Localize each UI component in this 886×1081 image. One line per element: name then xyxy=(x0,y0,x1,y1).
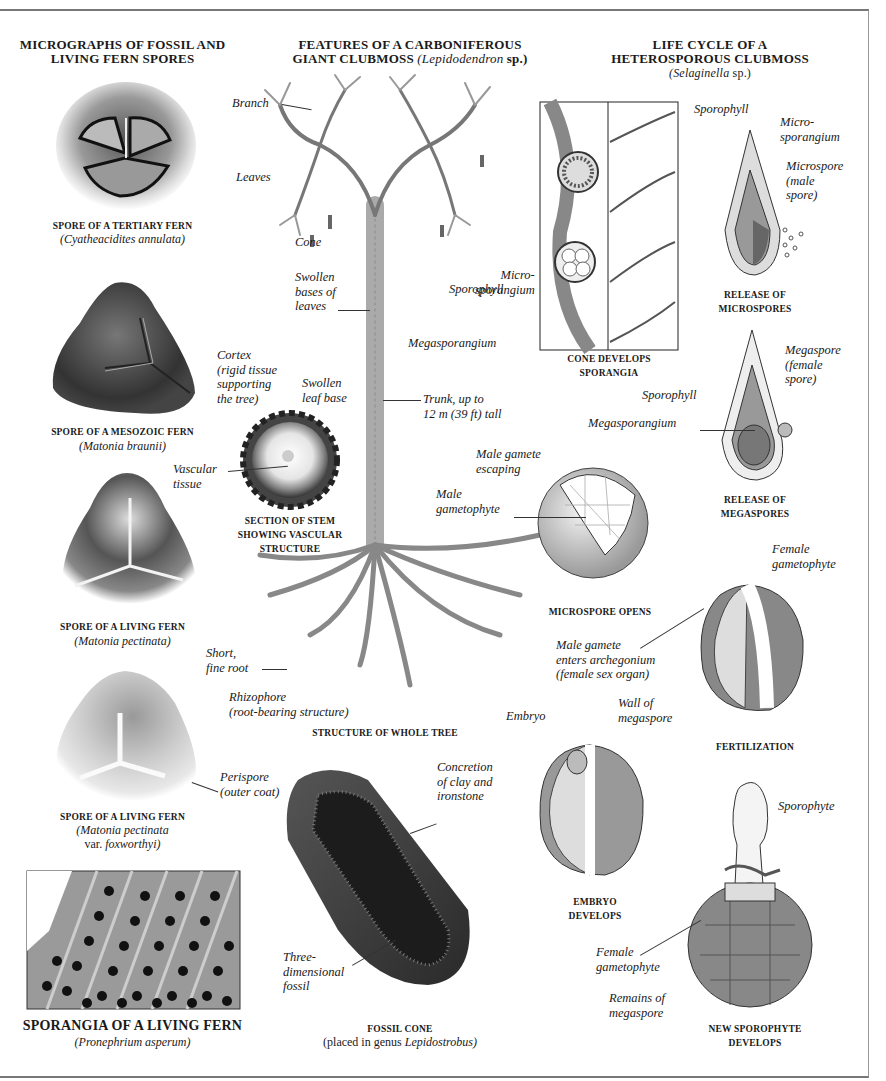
lepidodendron-tree-illustration xyxy=(250,75,550,715)
fossil-genus-name: Lepidostrobus) xyxy=(405,1035,477,1049)
trunk-leader xyxy=(383,400,421,401)
living-spore-species: (Matonia pectinata) xyxy=(10,634,235,648)
lifecycle-section-title: LIFE CYCLE OF A HETEROSPOROUS CLUBMOSS (… xyxy=(575,38,845,80)
micro-sporophyll-label: Sporophyll xyxy=(694,102,748,117)
lifecycle-title-line1: LIFE CYCLE OF A xyxy=(575,38,845,52)
cone-develops-caption: CONE DEVELOPS SPORANGIA xyxy=(540,352,678,380)
living-fern-spore-foxworthyi-image xyxy=(50,668,200,808)
spores-section-title: MICROGRAPHS OF FOSSIL AND LIVING FERN SP… xyxy=(10,38,235,66)
embryo-develops-caption: EMBRYO DEVELOPS xyxy=(540,895,650,923)
stem-caption-line2: SHOWING VASCULAR xyxy=(220,528,360,542)
sporophyte-label: Sporophyte xyxy=(778,799,834,814)
microspore-label: Microspore (male spore) xyxy=(786,159,843,203)
clubmoss-title-prefix: GIANT CLUBMOSS xyxy=(292,51,417,66)
megaspore-label: Megaspore (female spore) xyxy=(785,343,841,387)
cortex-label: Cortex (rigid tissue supporting the tree… xyxy=(217,348,277,406)
cone-megasporangium-label: Megasporangium xyxy=(408,336,496,351)
short-root-leader xyxy=(262,669,287,670)
clubmoss-genus: (Lepidodendron xyxy=(417,51,503,66)
male-gametophyte-leader xyxy=(514,517,586,518)
three-dimensional-fossil-label: Three- dimensional fossil xyxy=(283,950,344,994)
fossil-cone-genus: (placed in genus Lepidostrobus) xyxy=(290,1035,510,1049)
cone-caption-line1: CONE DEVELOPS xyxy=(540,352,678,366)
sporangia-photo xyxy=(27,871,240,1009)
swollen-bases-label: Swollen bases of leaves xyxy=(295,270,336,314)
wall-of-megaspore-label: Wall of megaspore xyxy=(618,696,672,725)
fertilization-illustration xyxy=(695,580,810,715)
microspore-opens-illustration xyxy=(535,465,655,580)
swollen-bases-leader xyxy=(338,310,370,311)
perispore-label: Perispore (outer coat) xyxy=(220,770,279,799)
fossil-cone-caption: FOSSIL CONE xyxy=(300,1022,500,1036)
new-sporophyte-line1: NEW SPOROPHYTE xyxy=(690,1022,820,1036)
trunk-label: Trunk, up to 12 m (39 ft) tall xyxy=(423,392,501,421)
tertiary-fern-spore-image xyxy=(50,78,202,213)
sporangia-species: (Pronephrium asperum) xyxy=(10,1035,255,1049)
spores-title-line2: LIVING FERN SPORES xyxy=(10,52,235,66)
stem-section-caption: SECTION OF STEM SHOWING VASCULAR STRUCTU… xyxy=(220,514,360,556)
cone-caption-line2: SPORANGIA xyxy=(540,366,678,380)
foxworthyi-spore-species: (Matonia pectinata xyxy=(10,823,235,837)
branch-label: Branch xyxy=(232,96,269,111)
sporangia-caption: SPORANGIA OF A LIVING FERN xyxy=(10,1019,255,1033)
release-megaspores-caption: RELEASE OF MEGASPORES xyxy=(700,493,810,521)
mega-sporophyll-label: Sporophyll xyxy=(642,388,696,403)
tree-caption: STRUCTURE OF WHOLE TREE xyxy=(285,726,485,740)
release-microspores-caption: RELEASE OF MICROSPORES xyxy=(700,288,810,316)
swollen-leaf-base-label: Swollen leaf base xyxy=(302,376,347,405)
concretion-label: Concretion of clay and ironstone xyxy=(437,760,493,804)
lifecycle-title-suffix: sp.) xyxy=(729,66,751,80)
megasporangium-leader xyxy=(700,430,755,431)
new-sporophyte-line2: DEVELOPS xyxy=(690,1036,820,1050)
clubmoss-title-line1: FEATURES OF A CARBONIFEROUS xyxy=(270,38,550,52)
mega-release-line2: MEGASPORES xyxy=(700,507,810,521)
leaves-label: Leaves xyxy=(236,170,271,185)
vascular-tissue-label: Vascular tissue xyxy=(173,462,217,491)
embryo-caption-line2: DEVELOPS xyxy=(540,909,650,923)
embryo-illustration xyxy=(535,740,650,880)
embryo-caption-line1: EMBRYO xyxy=(540,895,650,909)
micro-release-line1: RELEASE OF xyxy=(700,288,810,302)
living-spore-caption: SPORE OF A LIVING FERN xyxy=(10,620,235,634)
foxworthyi-spore-variety: var. foxworthyi) xyxy=(10,837,235,851)
male-gamete-escaping-label: Male gamete escaping xyxy=(476,447,541,476)
mesozoic-spore-caption: SPORE OF A MESOZOIC FERN xyxy=(10,425,235,439)
male-gamete-enters-label: Male gamete enters archegonium (female s… xyxy=(556,638,655,682)
fertilization-caption: FERTILIZATION xyxy=(700,740,810,754)
stem-cross-section-image xyxy=(236,410,344,510)
clubmoss-title-line2: GIANT CLUBMOSS (Lepidodendron sp.) xyxy=(270,52,550,66)
microspore-opens-caption: MICROSPORE OPENS xyxy=(530,605,670,619)
lifecycle-title-line2: HETEROSPOROUS CLUBMOSS xyxy=(575,52,845,66)
microsporangium-label: Micro- sporangium xyxy=(780,115,840,144)
embryo-label: Embryo xyxy=(506,709,546,724)
stem-caption-line3: STRUCTURE xyxy=(220,542,360,556)
microspore-release-illustration xyxy=(715,130,815,280)
lifecycle-genus: (Selaginella xyxy=(669,66,729,80)
short-root-label: Short, fine root xyxy=(206,646,248,675)
male-gametophyte-label: Male gametophyte xyxy=(436,487,500,516)
clubmoss-section-title: FEATURES OF A CARBONIFEROUS GIANT CLUBMO… xyxy=(270,38,550,66)
fossil-genus-prefix: (placed in genus xyxy=(323,1035,405,1049)
mega-megasporangium-label: Megasporangium xyxy=(588,416,676,431)
tertiary-spore-caption: SPORE OF A TERTIARY FERN xyxy=(10,219,235,233)
variety-prefix: var. xyxy=(85,837,106,851)
rhizophore-label: Rhizophore (root-bearing structure) xyxy=(229,690,349,719)
micro-release-line2: MICROSPORES xyxy=(700,302,810,316)
female-gametophyte-label: Female gametophyte xyxy=(772,542,836,571)
stem-caption-line1: SECTION OF STEM xyxy=(220,514,360,528)
spores-title-line1: MICROGRAPHS OF FOSSIL AND xyxy=(10,38,235,52)
mesozoic-spore-species: (Matonia braunii) xyxy=(10,439,235,453)
clubmoss-title-suffix: sp.) xyxy=(503,51,527,66)
mega-release-line1: RELEASE OF xyxy=(700,493,810,507)
remains-of-megaspore-label: Remains of megaspore xyxy=(609,991,665,1020)
new-sporophyte-caption: NEW SPOROPHYTE DEVELOPS xyxy=(690,1022,820,1050)
cone-sporangia-illustration xyxy=(540,102,678,350)
mesozoic-fern-spore-image xyxy=(45,278,205,418)
cone-label: Cone xyxy=(295,235,321,250)
variety-name: foxworthyi) xyxy=(105,837,160,851)
cone-sporophyll-label: Sporophyll xyxy=(449,282,503,297)
tertiary-spore-species: (Cyatheacidites annulata) xyxy=(10,232,235,246)
foxworthyi-spore-caption: SPORE OF A LIVING FERN xyxy=(10,810,235,824)
